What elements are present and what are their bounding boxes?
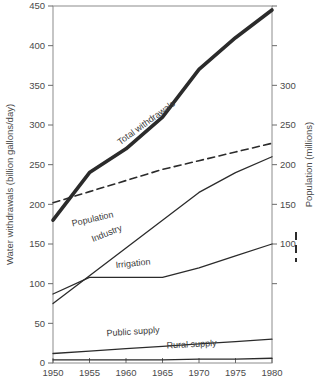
left-axis: 050100150200250300350400450Water withdra… [4,0,53,368]
left-axis-title: Water withdrawals (billion gallons/day) [4,104,15,265]
right-axis-tick-label: 250 [280,119,296,130]
chart-svg: 050100150200250300350400450Water withdra… [0,0,321,388]
x-axis-tick-label: 1970 [188,367,209,378]
series-annotation-label: Population [71,209,115,228]
chart-figure: 050100150200250300350400450Water withdra… [0,0,321,388]
left-axis-tick-label: 100 [29,278,45,289]
x-axis-tick-label: 1960 [115,367,136,378]
left-axis-tick-label: 450 [29,0,45,11]
x-axis-tick-label: 1955 [79,367,100,378]
left-axis-tick-label: 50 [34,318,45,329]
series-layer [53,10,272,360]
left-axis-tick-label: 150 [29,238,45,249]
left-axis-tick-label: 300 [29,119,45,130]
right-axis-tick-label: 100 [280,238,296,249]
x-axis-tick-label: 1975 [225,367,246,378]
series-annotation-label: Industry [90,222,124,243]
series-line [53,244,272,294]
plot-border [53,6,272,363]
x-axis-tick-label: 1980 [261,367,282,378]
right-axis-tick-label: 150 [280,199,296,210]
series-annotation-label: Irrigation [115,256,151,270]
annotation-layer: Total withdrawalsPopulationIndustryIrrig… [71,98,218,350]
x-axis-tick-label: 1950 [42,367,63,378]
x-axis-tick-label: 1965 [152,367,173,378]
left-axis-tick-label: 350 [29,80,45,91]
bottom-axis: 1950195519601965197019751980 [42,358,282,378]
series-line [53,143,272,203]
left-axis-tick-label: 400 [29,40,45,51]
series-line [53,339,272,353]
right-axis-tick-label: 300 [280,80,296,91]
plot-frame [53,6,272,363]
right-axis-tick-label: 200 [280,159,296,170]
series-annotation-label: Total withdrawals [115,98,177,147]
left-axis-tick-label: 200 [29,199,45,210]
right-axis-title: Population (millions) [303,122,314,208]
left-axis-tick-label: 250 [29,159,45,170]
right-axis: 100150200250300Population (millions) [272,6,314,284]
series-annotation-label: Rural supply [166,338,217,351]
series-annotation-label: Public supply [106,325,160,339]
